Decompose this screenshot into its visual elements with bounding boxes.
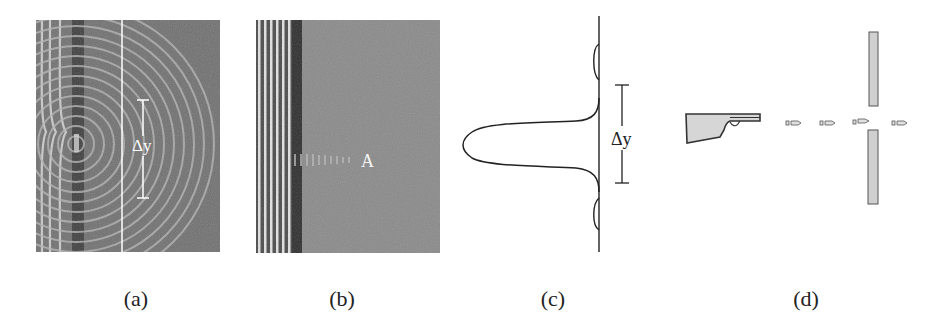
bullet-icon [820, 121, 835, 125]
barrier-upper [869, 32, 878, 106]
caption-a: (a) [106, 286, 166, 312]
side-lobe-bottom [594, 198, 599, 230]
ripple-tank-b-image: A [256, 20, 440, 253]
caption-b: (b) [312, 286, 372, 312]
barrier-lower [868, 130, 878, 204]
bullet-icon [892, 121, 907, 125]
gun-icon [686, 114, 760, 143]
caption-c: (c) [523, 286, 583, 312]
intensity-curve-plot: Δy [456, 14, 646, 254]
bullet-icons [786, 119, 907, 125]
side-lobe-top [594, 44, 599, 80]
delta-y-label-a: Δy [132, 136, 152, 155]
central-maximum-curve [463, 98, 599, 192]
delta-y-label-c: Δy [611, 129, 632, 149]
panel-d-gun-and-slit [680, 26, 910, 226]
slit-barrier [868, 32, 878, 204]
panel-b-ripple-tank-wide-opening: A [256, 20, 440, 253]
bullet-icon [853, 119, 869, 124]
caption-d: (d) [776, 286, 836, 312]
panel-c-intensity-profile: Δy [456, 14, 646, 254]
bullet-icon [786, 121, 801, 125]
label-A: A [361, 151, 374, 171]
panel-a-ripple-tank-narrow-slit: Δy [36, 20, 220, 252]
gun-slit-diagram [680, 26, 910, 226]
ripple-tank-a-image: Δy [36, 20, 220, 252]
